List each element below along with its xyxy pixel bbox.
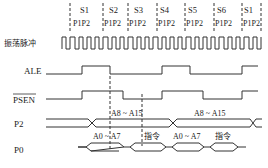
ale-signal-label: ALE (24, 66, 42, 76)
timing-diagram: S1 P1P2 S2 P1P2 S3 P1P2 S4 P1P2 S5 P1P2 … (0, 0, 268, 168)
phase-label: P1P2 (73, 19, 90, 28)
phase-label: P1P2 (215, 19, 232, 28)
clock-signal-label: 振荡脉冲 (4, 38, 36, 48)
state-label: S1 (244, 5, 253, 15)
p2-signal-label: P2 (14, 119, 24, 129)
state-label: S4 (160, 5, 170, 15)
state-label: S3 (134, 5, 143, 15)
psen-signal-label: PSEN (13, 95, 36, 105)
p0-instruction-label: 指令 (144, 131, 160, 141)
p0-address-label: A0 ~ A7 (93, 132, 120, 141)
phase-label: P1P2 (158, 19, 175, 28)
state-label: S2 (109, 5, 118, 15)
ale-waveform (46, 66, 258, 74)
phase-label: P1P2 (243, 19, 260, 28)
p0-signal-label: P0 (14, 145, 24, 155)
p0-instruction-label: 指令 (215, 131, 231, 141)
phase-label: P1P2 (186, 19, 203, 28)
phase-label: P1P2 (129, 19, 146, 28)
phase-label: P1P2 (104, 19, 121, 28)
p0-address-label: A0 ~ A7 (173, 132, 200, 141)
state-label: S5 (188, 5, 197, 15)
psen-waveform (46, 91, 258, 99)
state-label: S1 (80, 5, 89, 15)
state-label: S6 (217, 5, 226, 15)
p2-address-label: A8 ~ A15 (194, 109, 225, 118)
p2-address-label: A8 ~ A15 (111, 109, 142, 118)
state-labels: S1 P1P2 S2 P1P2 S3 P1P2 S4 P1P2 S5 P1P2 … (73, 5, 260, 28)
clock-waveform (62, 37, 261, 49)
p2-bus-waveform (46, 119, 262, 127)
p0-bus-waveform (78, 143, 246, 151)
